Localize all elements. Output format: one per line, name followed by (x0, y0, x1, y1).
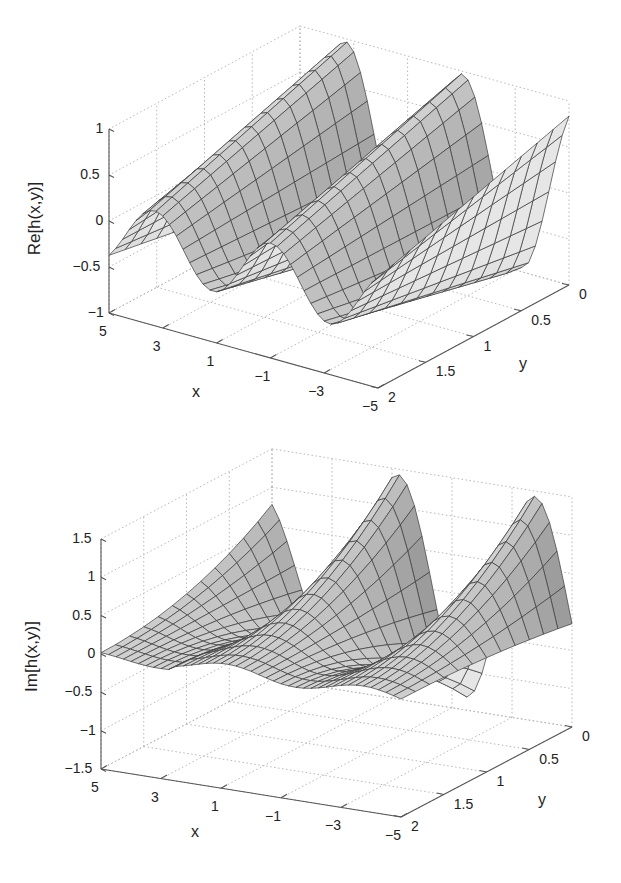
y-tick-label: 2 (411, 819, 419, 833)
z-tick-label: −0.5 (73, 259, 101, 273)
z-tick-label: 0 (95, 213, 103, 227)
x-tick-label: −5 (362, 399, 378, 413)
y-axis-label: y (519, 356, 527, 372)
im-surface-canvas (0, 440, 621, 883)
y-tick-label: 1.5 (436, 364, 455, 378)
x-tick-label: −1 (265, 809, 281, 823)
y-tick-label: 0 (579, 287, 587, 301)
y-tick-label: 2 (388, 390, 396, 404)
x-tick-label: 1 (207, 354, 215, 368)
y-tick-label: 1.5 (454, 797, 473, 811)
z-tick-label: −0.5 (65, 684, 93, 698)
x-axis-label: x (192, 384, 200, 400)
surface-mesh (101, 475, 572, 699)
z-axis-label: Im[h(x,y)] (23, 621, 40, 692)
z-tick-label: 1.5 (72, 531, 91, 545)
re-surface-canvas (0, 0, 621, 440)
z-tick-label: 0.5 (80, 167, 99, 181)
x-axis-label: x (191, 824, 199, 840)
x-tick-label: −3 (308, 384, 324, 398)
z-axis-label: Re[h(x,y)] (26, 182, 43, 256)
y-tick-label: 0.5 (531, 313, 550, 327)
x-tick-label: −1 (254, 369, 270, 383)
x-tick-label: 5 (99, 324, 107, 338)
x-axis-line (101, 769, 401, 817)
y-tick-label: 1 (484, 339, 492, 353)
re-surface-plot: Re[h(x,y)] x y 10.50−0.5−1531−1−3−500.51… (0, 0, 621, 440)
y-tick-label: 0.5 (539, 752, 558, 766)
im-surface-plot: Im[h(x,y)] x y 1.510.50−0.5−1−1.5531−1−3… (0, 440, 621, 883)
z-tick-label: 1 (87, 569, 95, 583)
z-tick-label: −1.5 (65, 761, 93, 775)
x-tick-label: 5 (91, 780, 99, 794)
y-tick-label: 0 (582, 729, 590, 743)
z-tick-label: 0 (87, 646, 95, 660)
z-tick-label: 0.5 (72, 608, 91, 622)
x-tick-label: −5 (385, 828, 401, 842)
x-tick-label: 1 (211, 799, 219, 813)
x-axis-line (109, 313, 378, 388)
x-tick-label: 3 (153, 339, 161, 353)
z-tick-label: 1 (95, 121, 103, 135)
y-tick-label: 1 (497, 774, 505, 788)
x-tick-label: 3 (151, 790, 159, 804)
surface-mesh (109, 42, 569, 324)
y-axis-label: y (538, 792, 546, 808)
x-tick-label: −3 (325, 818, 341, 832)
z-tick-label: −1 (88, 305, 104, 319)
z-tick-label: −1 (80, 723, 96, 737)
